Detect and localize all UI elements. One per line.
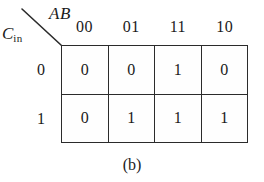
column-header-00: 00 <box>61 19 108 35</box>
row-header-column: 0 1 <box>28 45 54 143</box>
kmap-row-0: 0 0 1 0 <box>62 46 247 95</box>
column-header-01: 01 <box>108 19 155 35</box>
karnaugh-map-figure: AB Cin 00 01 11 10 0 1 0 0 1 0 0 1 1 1 (… <box>0 0 264 182</box>
row-variable-subscript: in <box>13 32 22 44</box>
kmap-cell-r0c3: 0 <box>202 46 248 94</box>
row-header-1: 1 <box>28 94 54 143</box>
kmap-grid: 0 0 1 0 0 1 1 1 <box>61 45 248 143</box>
column-header-10: 10 <box>201 19 248 35</box>
column-header-row: 00 01 11 10 <box>61 19 248 35</box>
kmap-cell-r1c2: 1 <box>155 95 202 143</box>
kmap-cell-r1c3: 1 <box>202 95 248 143</box>
row-variable-base: C <box>2 24 13 43</box>
figure-caption: (b) <box>0 157 264 173</box>
row-header-0: 0 <box>28 45 54 94</box>
row-variable-label: Cin <box>2 25 23 44</box>
kmap-cell-r1c1: 1 <box>109 95 156 143</box>
kmap-cell-r0c1: 0 <box>109 46 156 94</box>
column-header-11: 11 <box>155 19 202 35</box>
kmap-cell-r0c0: 0 <box>62 46 109 94</box>
kmap-row-1: 0 1 1 1 <box>62 95 247 143</box>
kmap-cell-r0c2: 1 <box>155 46 202 94</box>
kmap-cell-r1c0: 0 <box>62 95 109 143</box>
